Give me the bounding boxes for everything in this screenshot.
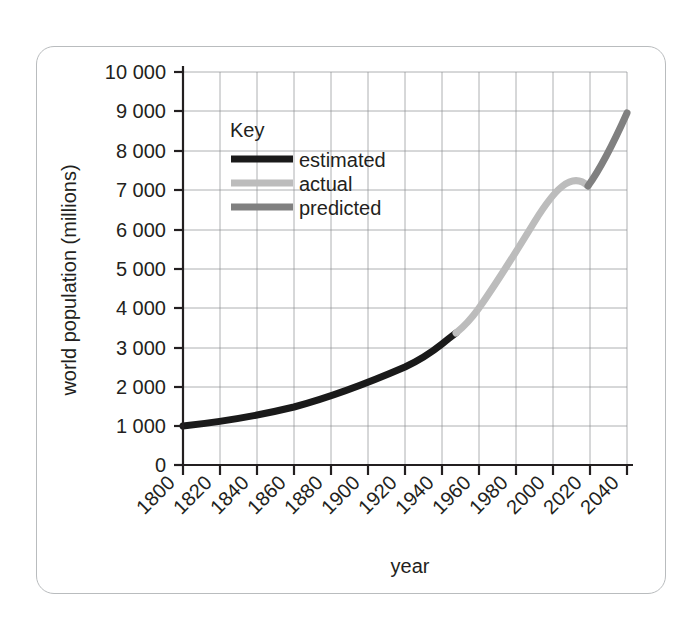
y-tick-label: 4 000 [116,297,166,319]
legend-label-estimated: estimated [299,149,386,171]
x-tick-label: 1800 [132,471,179,518]
figure-root: 10 000 9 000 8 000 7 000 6 000 5 000 4 0… [0,0,698,628]
y-tick-label: 8 000 [116,140,166,162]
series-actual [456,181,588,333]
legend-label-actual: actual [299,173,352,195]
y-axis-title: world population (millions) [58,164,80,396]
x-tick-label: 1960 [428,471,475,518]
y-tick-label: 9 000 [116,100,166,122]
x-tick-label: 1840 [206,471,253,518]
x-tick-label: 1880 [280,471,327,518]
y-tick-label: 6 000 [116,219,166,241]
legend: Key estimated actual predicted [230,119,386,219]
y-tick-label: 2 000 [116,376,166,398]
x-tick-label: 1920 [354,471,401,518]
x-tick-label: 1900 [317,471,364,518]
x-tick-marks [183,465,627,475]
x-tick-label: 1860 [243,471,290,518]
y-tick-marks [174,72,183,465]
x-tick-label: 2040 [576,471,623,518]
y-tick-labels: 10 000 9 000 8 000 7 000 6 000 5 000 4 0… [105,61,166,476]
x-tick-label: 1940 [391,471,438,518]
y-tick-label: 10 000 [105,61,166,83]
y-tick-label: 7 000 [116,179,166,201]
x-tick-label: 2000 [502,471,549,518]
x-tick-label: 2020 [539,471,586,518]
population-line-chart: 10 000 9 000 8 000 7 000 6 000 5 000 4 0… [0,0,698,628]
legend-label-predicted: predicted [299,197,381,219]
x-tick-label: 1820 [169,471,216,518]
legend-title: Key [230,119,264,141]
y-tick-label: 3 000 [116,337,166,359]
y-tick-label: 5 000 [116,258,166,280]
series-estimated [183,333,456,426]
x-axis-title: year [391,555,430,577]
y-tick-label: 1 000 [116,415,166,437]
series-predicted [588,113,627,186]
x-tick-labels: 1800 1820 1840 1860 1880 1900 1920 1940 … [132,471,623,518]
x-tick-label: 1980 [465,471,512,518]
